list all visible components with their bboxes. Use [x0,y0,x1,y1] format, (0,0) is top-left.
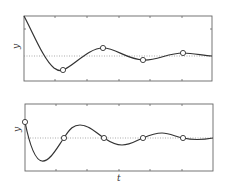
marker-circle-icon [60,67,65,72]
bottom-markers [22,119,185,140]
bottom-x-axis-label: t [117,173,121,183]
bottom-x-ticks [56,104,182,171]
marker-circle-icon [140,57,145,62]
marker-circle-icon [140,135,145,140]
top-plot-frame [24,16,212,81]
top-x-ticks [55,16,182,81]
top-panel: y [11,16,212,81]
marker-circle-icon [61,135,66,140]
bottom-y-axis-label: y [12,126,22,133]
marker-circle-icon [180,135,185,140]
bottom-response-curve [25,122,213,161]
marker-circle-icon [180,50,185,55]
top-y-axis-label: y [11,43,21,50]
top-response-curve [24,16,212,71]
bottom-panel: y t [12,104,213,183]
marker-circle-icon [22,119,27,124]
figure: y y t [0,0,226,185]
marker-circle-icon [100,45,105,50]
marker-circle-icon [101,135,106,140]
